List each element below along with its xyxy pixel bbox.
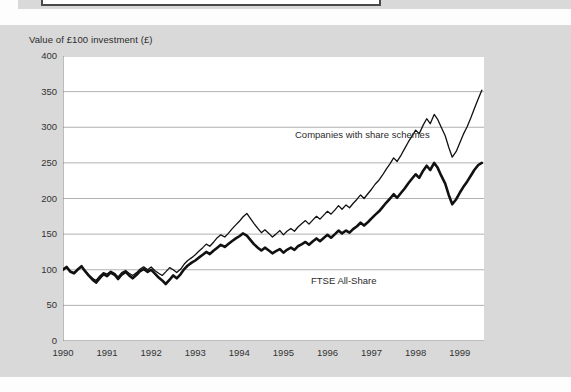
chart-figure: Value of £100 investment (£) 05010015020… bbox=[0, 25, 571, 377]
x-tick-label: 1995 bbox=[263, 347, 303, 358]
x-tick-label: 1997 bbox=[352, 347, 392, 358]
x-tick-label: 1991 bbox=[87, 347, 127, 358]
y-tick-label: 50 bbox=[23, 300, 57, 310]
y-tick-label: 300 bbox=[23, 122, 57, 132]
y-tick-label: 200 bbox=[23, 194, 57, 204]
series-lines bbox=[63, 90, 482, 284]
plot-svg bbox=[63, 56, 484, 341]
x-tick-label: 1996 bbox=[308, 347, 348, 358]
series-line bbox=[63, 163, 482, 284]
x-tick-label: 1993 bbox=[175, 347, 215, 358]
x-tick-label: 1990 bbox=[43, 347, 83, 358]
y-tick-label: 250 bbox=[23, 158, 57, 168]
y-tick-label: 150 bbox=[23, 229, 57, 239]
series-label-ftse: FTSE All-Share bbox=[311, 275, 376, 286]
y-tick-label: 400 bbox=[23, 51, 57, 61]
page-margin-bottom bbox=[0, 377, 571, 392]
gridlines bbox=[63, 56, 484, 305]
page-margin-top bbox=[0, 9, 571, 25]
x-tick-label: 1992 bbox=[131, 347, 171, 358]
plot-area bbox=[63, 56, 484, 341]
series-label-companies: Companies with share schemes bbox=[295, 129, 430, 140]
x-tick-label: 1999 bbox=[440, 347, 480, 358]
y-tick-label: 100 bbox=[23, 265, 57, 275]
y-axis-title: Value of £100 investment (£) bbox=[29, 34, 153, 45]
x-tick-label: 1998 bbox=[396, 347, 436, 358]
x-tick-label: 1994 bbox=[219, 347, 259, 358]
y-tick-label: 350 bbox=[23, 87, 57, 97]
upper-box-fragment bbox=[41, 0, 381, 6]
y-tick-label: 0 bbox=[23, 336, 57, 346]
